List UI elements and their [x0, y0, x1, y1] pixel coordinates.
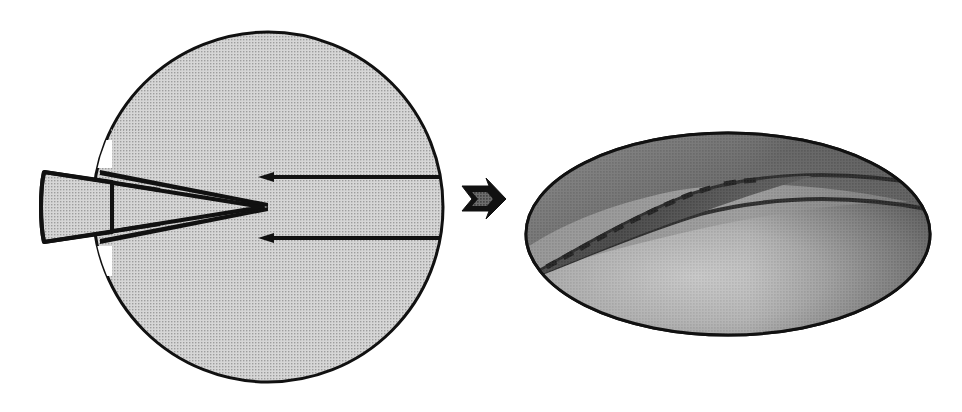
- undeformed-disc-panel: [40, 32, 448, 382]
- deformation-diagram: [0, 0, 962, 412]
- figure-root: [0, 0, 962, 412]
- transformation-arrow: [462, 178, 506, 219]
- deformed-ellipse-panel: [520, 120, 935, 345]
